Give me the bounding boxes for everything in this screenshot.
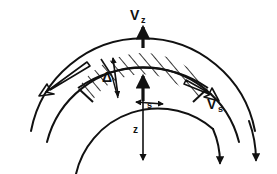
inner-arc-arrowhead (213, 129, 220, 163)
diagram-canvas: V z V s Δ s z (0, 0, 277, 174)
vz-label-base: V (130, 7, 140, 23)
delta-label: Δ (102, 69, 112, 85)
vs-label-subscript: s (218, 104, 223, 114)
figure-root: V z V s Δ s z (0, 0, 277, 174)
vz-label-subscript: z (141, 15, 146, 25)
s-label: s (147, 100, 152, 110)
vs-label-base: V (207, 96, 217, 112)
vz-label: V z (130, 7, 146, 25)
hatched-shell (60, 30, 220, 120)
vs-label: V s (207, 96, 223, 114)
inner-arc-left (76, 108, 213, 174)
z-label: z (133, 124, 138, 135)
